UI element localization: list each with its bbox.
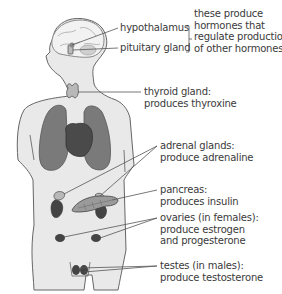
testis-right (80, 265, 88, 275)
endocrine-diagram: hypothalamus pituitary gland these produ… (0, 0, 282, 294)
label-pituitary-gland: pituitary gland (120, 42, 190, 54)
label-ovaries: ovaries (in females): produce estrogen a… (160, 212, 259, 247)
heart (66, 123, 93, 156)
label-adrenal: adrenal glands: produce adrenaline (160, 140, 253, 163)
label-hypothalamus: hypothalamus (120, 22, 189, 34)
label-testes: testes (in males): produce testosterone (160, 260, 263, 283)
thyroid-gland (67, 83, 79, 98)
adrenal-gland-left (54, 192, 65, 200)
label-pancreas: pancreas: produces insulin (160, 184, 238, 207)
label-thyroid: thyroid gland: produces thyroxine (144, 86, 237, 109)
ovary-right (91, 234, 101, 242)
testis-left (72, 265, 80, 275)
label-brain-note: these produce hormones that regulate pro… (194, 8, 282, 54)
ovary-left (55, 234, 65, 242)
